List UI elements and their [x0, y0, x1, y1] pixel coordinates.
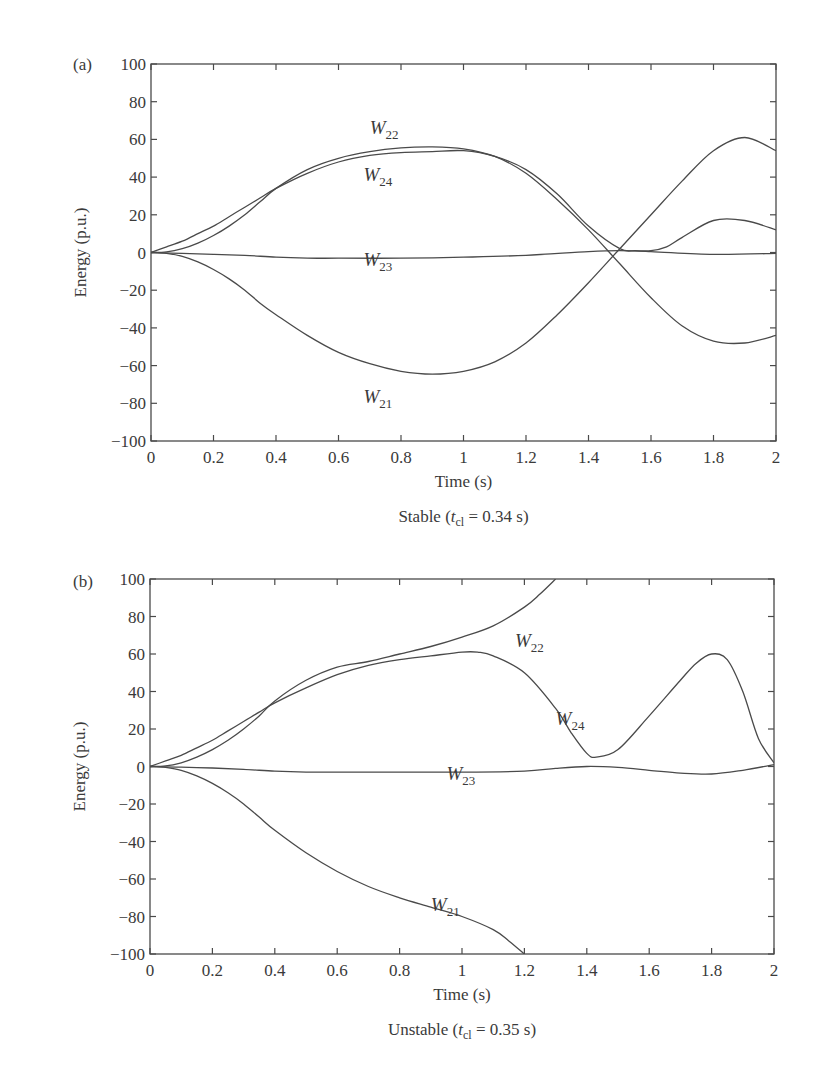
- y-tick-label: 0: [137, 758, 146, 777]
- series-line-w22: [151, 147, 776, 344]
- y-axis-label: Energy (p.u.): [70, 722, 89, 812]
- x-tick-label: 1.4: [578, 448, 600, 467]
- y-tick-label: 80: [129, 93, 146, 112]
- y-tick-label: −20: [119, 281, 146, 300]
- y-tick-label: 40: [129, 168, 146, 187]
- series-line-w21: [150, 767, 524, 955]
- panel-label: (b): [73, 572, 93, 591]
- series-line-w24: [151, 150, 776, 252]
- series-label-w21: W21: [431, 894, 460, 919]
- y-tick-label: 20: [128, 720, 145, 739]
- x-tick-label: 0.2: [203, 448, 224, 467]
- y-tick-label: 40: [128, 683, 145, 702]
- x-tick-label: 1: [459, 448, 468, 467]
- series-label-w24: W24: [556, 708, 585, 733]
- y-tick-label: 60: [129, 130, 146, 149]
- x-axis-label: Time (s): [433, 985, 490, 1004]
- x-tick-label: 1.6: [640, 448, 661, 467]
- series-curves: [151, 138, 776, 375]
- x-tick-labels: 00.20.40.60.811.21.41.61.82: [146, 961, 779, 980]
- series-label-w23: W23: [446, 763, 475, 788]
- x-tick-label: 1.2: [514, 961, 535, 980]
- x-tick-label: 1.2: [515, 448, 536, 467]
- series-line-w22: [150, 579, 556, 767]
- figure: (a) 00.20.40.60.811.21.41.61.82 10080604…: [0, 0, 816, 1092]
- x-tick-label: 1.4: [576, 961, 598, 980]
- series-line-w23: [151, 251, 776, 259]
- x-tick-label: 1.6: [639, 961, 660, 980]
- series-labels: W21W22W23W24: [431, 630, 585, 919]
- x-tick-label: 0.4: [265, 448, 287, 467]
- series-line-w24: [150, 652, 774, 767]
- x-tick-label: 2: [770, 961, 779, 980]
- x-tick-label: 1: [458, 961, 467, 980]
- y-tick-labels: 100806040200−20−40−60−80−100: [111, 55, 146, 451]
- y-tick-label: −100: [111, 432, 146, 451]
- y-tick-label: −100: [110, 945, 145, 964]
- series-label-w22: W22: [515, 630, 544, 655]
- series-label-w21: W21: [364, 386, 393, 411]
- x-tick-label: 0.8: [390, 448, 411, 467]
- series-label-w22: W22: [370, 117, 399, 142]
- chart-caption: Stable (tcl = 0.34 s): [398, 507, 528, 529]
- series-label-w23: W23: [364, 249, 393, 274]
- chart-panel-a: (a) 00.20.40.60.811.21.41.61.82 10080604…: [71, 55, 780, 529]
- y-tick-labels: 100806040200−20−40−60−80−100: [110, 570, 145, 964]
- y-axis-label: Energy (p.u.): [71, 208, 90, 298]
- y-tick-label: 0: [138, 244, 147, 263]
- y-tick-label: −40: [119, 319, 146, 338]
- panel-label: (a): [73, 55, 92, 74]
- x-axis-label: Time (s): [435, 472, 492, 491]
- series-label-w24: W24: [364, 164, 393, 189]
- x-tick-label: 0.4: [264, 961, 286, 980]
- chart-caption: Unstable (tcl = 0.35 s): [388, 1020, 536, 1042]
- y-tick-label: −20: [118, 795, 145, 814]
- y-tick-label: −60: [119, 357, 146, 376]
- x-tick-label: 0: [146, 961, 155, 980]
- y-tick-label: −40: [118, 833, 145, 852]
- plot-frame: [151, 64, 776, 441]
- chart-panel-b: (b) 00.20.40.60.811.21.41.61.82 10080604…: [70, 570, 778, 1042]
- y-tick-label: 100: [121, 55, 147, 74]
- x-tick-label: 0.6: [327, 961, 348, 980]
- axis-ticks: [151, 64, 776, 441]
- x-tick-label: 0.6: [328, 448, 349, 467]
- y-tick-label: −60: [118, 870, 145, 889]
- y-tick-label: 100: [120, 570, 146, 589]
- x-tick-label: 0.8: [389, 961, 410, 980]
- y-tick-label: −80: [119, 394, 146, 413]
- x-tick-label: 1.8: [703, 448, 724, 467]
- x-tick-label: 1.8: [701, 961, 722, 980]
- y-tick-label: 80: [128, 608, 145, 627]
- x-tick-label: 0.2: [202, 961, 223, 980]
- x-tick-label: 0: [147, 448, 156, 467]
- y-tick-label: 20: [129, 206, 146, 225]
- x-tick-labels: 00.20.40.60.811.21.41.61.82: [147, 448, 781, 467]
- y-tick-label: 60: [128, 645, 145, 664]
- y-tick-label: −80: [118, 908, 145, 927]
- x-tick-label: 2: [772, 448, 781, 467]
